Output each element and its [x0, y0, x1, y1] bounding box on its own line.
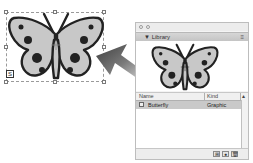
- column-divider[interactable]: [240, 93, 241, 100]
- vertical-scrollbar[interactable]: [241, 100, 248, 149]
- symbol-preview: [136, 41, 248, 91]
- column-header-kind[interactable]: Kind: [207, 93, 218, 100]
- sort-toggle[interactable]: ▴: [242, 93, 245, 100]
- properties-icon[interactable]: ●: [222, 151, 229, 157]
- library-title: ▼ Library: [144, 33, 170, 41]
- column-divider[interactable]: [204, 93, 205, 100]
- library-bottom-bar: ⊞ ● 🗑: [136, 148, 248, 159]
- library-table-header: Name Kind ▴: [136, 92, 248, 101]
- row-name: Butterfly: [148, 101, 168, 109]
- stage: S ▼ Library ≡: [0, 0, 253, 163]
- trash-icon[interactable]: 🗑: [231, 151, 238, 157]
- collapse-triangle-icon[interactable]: ▼: [144, 34, 150, 40]
- library-list-empty-area[interactable]: [136, 109, 242, 149]
- new-symbol-icon[interactable]: ⊞: [213, 151, 220, 157]
- row-kind: Graphic: [207, 101, 226, 109]
- panel-menu-icon[interactable]: ≡: [240, 33, 244, 41]
- butterfly-preview: [150, 42, 220, 92]
- column-header-name[interactable]: Name: [139, 93, 154, 100]
- library-panel: ▼ Library ≡: [135, 22, 249, 160]
- table-row[interactable]: Butterfly Graphic: [136, 101, 242, 109]
- close-button[interactable]: [139, 25, 143, 29]
- panel-titlebar[interactable]: [136, 23, 248, 31]
- minimize-button[interactable]: [146, 25, 150, 29]
- graphic-symbol-icon: [139, 102, 144, 107]
